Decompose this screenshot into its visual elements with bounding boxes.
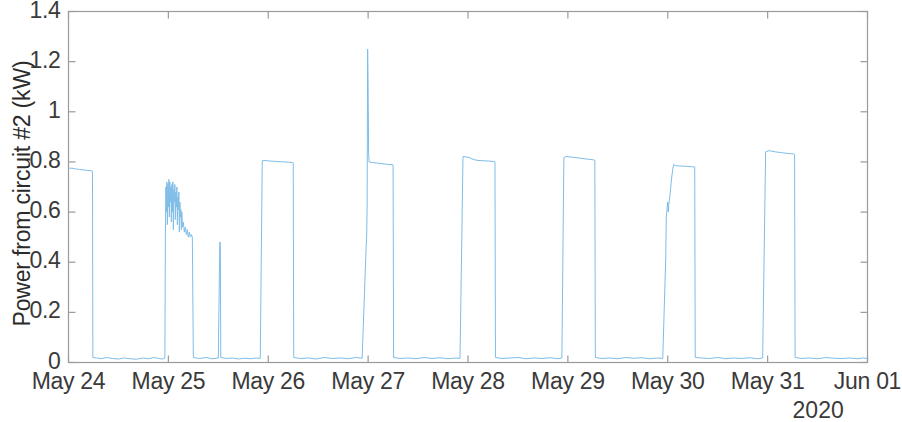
- x-tick-label: Jun 01: [808, 368, 902, 395]
- tick-marks: [69, 12, 868, 363]
- x-axis-year-label: 2020: [793, 397, 844, 422]
- axes-border: [69, 12, 868, 363]
- y-tick-label: 1.4: [29, 0, 60, 24]
- power-series-line: [69, 49, 868, 359]
- data-trace: [69, 49, 868, 359]
- y-tick-label: 1: [48, 97, 61, 124]
- y-axis-label: Power from circuit #2 (kW): [9, 34, 36, 354]
- axes-box: [69, 12, 868, 363]
